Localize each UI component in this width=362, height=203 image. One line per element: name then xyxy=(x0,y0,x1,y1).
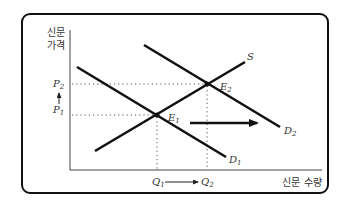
p2-label: P2 xyxy=(52,78,65,91)
equilibrium-point-e2 xyxy=(205,82,210,87)
supply-label: S xyxy=(247,51,254,62)
q2-label: Q2 xyxy=(201,176,214,189)
supply-demand-diagram: 신문 가격 신문 수량 S D1 D2 E1 E2 P2 P1 Q1 Q2 xyxy=(0,0,362,203)
d2-label: D2 xyxy=(283,125,297,138)
equilibrium-point-e1 xyxy=(155,113,160,118)
p1-label: P1 xyxy=(52,104,64,117)
d1-label: D1 xyxy=(228,154,242,167)
q1-label: Q1 xyxy=(152,176,165,189)
x-axis-label: 신문 수량 xyxy=(282,177,321,188)
y-axis-label-line1: 신문 xyxy=(47,27,65,38)
y-axis-label-line2: 가격 xyxy=(47,39,65,51)
supply-curve xyxy=(95,62,245,151)
demand-curve-d2 xyxy=(144,45,280,127)
